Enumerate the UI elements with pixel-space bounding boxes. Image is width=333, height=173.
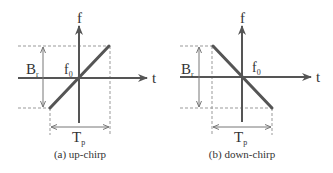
frequency-axis-label: f bbox=[240, 10, 245, 26]
caption-up-chirp: (a) up-chirp bbox=[54, 148, 107, 161]
bandwidth-label: Br bbox=[181, 61, 194, 79]
frequency-axis-label: f bbox=[77, 10, 82, 26]
center-frequency-label: f0 bbox=[64, 62, 73, 79]
center-frequency-label: f0 bbox=[252, 60, 261, 77]
up-chirp-diagram: f t Br f0 Tp (a) up-chirp bbox=[18, 10, 157, 161]
caption-down-chirp: (b) down-chirp bbox=[209, 148, 276, 161]
time-axis-label: t bbox=[316, 69, 321, 85]
pulse-duration-label: Tp bbox=[234, 129, 247, 147]
time-axis-label: t bbox=[152, 70, 157, 86]
pulse-duration-label: Tp bbox=[72, 129, 85, 147]
chirp-diagram-figure: f t Br f0 Tp (a) up-chirp f t Br f0 Tp (… bbox=[0, 0, 333, 173]
down-chirp-diagram: f t Br f0 Tp (b) down-chirp bbox=[180, 10, 321, 161]
bandwidth-label: Br bbox=[26, 61, 39, 79]
